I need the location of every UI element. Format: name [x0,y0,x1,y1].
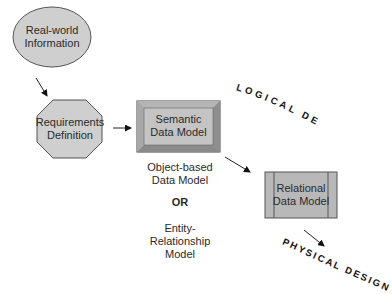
arrow-to-physical-design [304,230,324,246]
semantic-line2: Data Model [140,126,217,139]
relational-line2: Data Model [268,195,334,208]
relational-label: Relational Data Model [268,182,334,208]
requirements-line2: Definition [33,129,107,142]
option2-line3: Model [135,248,225,261]
physical-design-label: PHYSICAL DESIGN [281,236,392,294]
option1-line1: Object-based [135,161,225,174]
option1-line2: Data Model [135,174,225,187]
or-label: OR [160,196,200,209]
arrow-semantic-to-relational [225,157,250,172]
object-based-option: Object-based Data Model [135,161,225,187]
semantic-label: Semantic Data Model [140,113,217,139]
real-world-label: Real-world Information [17,24,87,50]
arrow-real-to-requirements [36,78,47,96]
real-world-line1: Real-world [17,24,87,37]
option2-line1: Entity- [135,222,225,235]
entity-relationship-option: Entity- Relationship Model [135,222,225,261]
relational-line1: Relational [268,182,334,195]
requirements-line1: Requirements [33,116,107,129]
requirements-label: Requirements Definition [33,116,107,142]
semantic-line1: Semantic [140,113,217,126]
option2-line2: Relationship [135,235,225,248]
real-world-line2: Information [17,37,87,50]
